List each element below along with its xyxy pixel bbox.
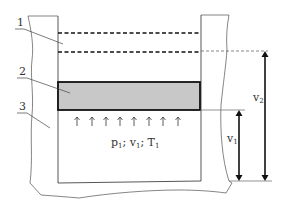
up-arrow-icon — [161, 117, 166, 126]
arrowhead-up-icon — [236, 110, 243, 116]
up-arrow-icon — [132, 117, 137, 126]
up-arrow-icon — [90, 117, 95, 126]
callout-1: 1 — [15, 16, 63, 44]
cylinder-piston-diagram: p1; v1; T1 v1 v2 1 2 3 — [0, 0, 284, 213]
arrowhead-down-icon — [236, 175, 243, 181]
right-wall-outer-edge — [201, 15, 232, 183]
callout-label-1: 1 — [17, 16, 24, 29]
up-arrow-icon — [147, 117, 152, 126]
piston — [58, 82, 200, 110]
up-arrow-icon — [118, 117, 123, 126]
callout-label-3: 3 — [19, 100, 26, 113]
state-label: p1; v1; T1 — [111, 136, 159, 150]
v2-dimension-arrow — [262, 51, 269, 181]
cylinder-bottom — [58, 181, 201, 183]
up-arrow-icon — [104, 117, 109, 126]
pressure-arrows — [75, 117, 181, 126]
v2-label: v2 — [252, 91, 264, 105]
arrowhead-up-icon — [262, 51, 269, 57]
callout-label-2: 2 — [19, 65, 26, 78]
callout-3: 3 — [17, 100, 50, 128]
up-arrow-icon — [176, 117, 181, 126]
up-arrow-icon — [75, 117, 80, 126]
arrowhead-down-icon — [262, 175, 269, 181]
v1-label: v1 — [226, 132, 238, 146]
